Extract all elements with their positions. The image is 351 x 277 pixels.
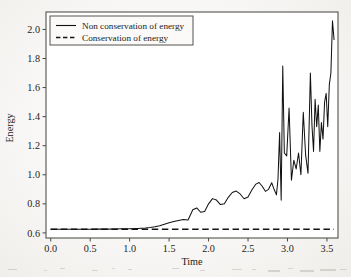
legend-label-non-conservation: Non conservation of energy bbox=[82, 21, 185, 31]
x-tick-label: 2.5 bbox=[242, 243, 255, 254]
x-axis-ticks: 0.00.51.01.52.02.53.03.5 bbox=[44, 238, 333, 254]
y-tick-label: 0.8 bbox=[27, 198, 40, 209]
chart-svg: 0.60.81.01.21.41.61.82.0 0.00.51.01.52.0… bbox=[0, 0, 351, 277]
y-axis-ticks: 0.60.81.01.21.41.61.82.0 bbox=[27, 24, 46, 238]
x-tick-label: 0.0 bbox=[44, 243, 57, 254]
x-tick-label: 3.5 bbox=[321, 243, 334, 254]
x-tick-label: 2.0 bbox=[202, 243, 215, 254]
energy-vs-time-chart: 0.60.81.01.21.41.61.82.0 0.00.51.01.52.0… bbox=[0, 0, 351, 277]
legend: Non conservation of energy Conservation … bbox=[50, 16, 193, 45]
plot-area-background bbox=[46, 12, 338, 238]
x-tick-label: 0.5 bbox=[84, 243, 97, 254]
legend-label-conservation: Conservation of energy bbox=[82, 33, 168, 43]
y-tick-label: 2.0 bbox=[27, 24, 40, 35]
y-axis-title: Energy bbox=[4, 112, 15, 142]
y-tick-label: 1.6 bbox=[27, 82, 40, 93]
y-tick-label: 1.0 bbox=[27, 169, 40, 180]
x-tick-label: 3.0 bbox=[281, 243, 294, 254]
figure-page: 0.60.81.01.21.41.61.82.0 0.00.51.01.52.0… bbox=[0, 0, 351, 277]
y-tick-label: 1.2 bbox=[27, 140, 40, 151]
x-tick-label: 1.0 bbox=[123, 243, 136, 254]
y-tick-label: 0.6 bbox=[27, 228, 40, 239]
x-tick-label: 1.5 bbox=[163, 243, 176, 254]
y-tick-label: 1.4 bbox=[27, 111, 40, 122]
y-tick-label: 1.8 bbox=[27, 53, 40, 64]
x-axis-title: Time bbox=[181, 256, 203, 267]
